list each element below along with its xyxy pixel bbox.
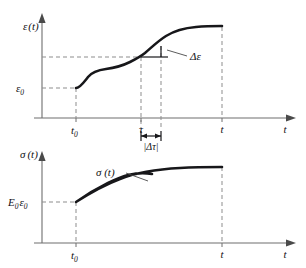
delta-tau-arrow-right xyxy=(155,133,161,138)
strain-y-axis-label-arg: (t) xyxy=(28,20,39,33)
stress-y-axis-arrowhead xyxy=(38,151,45,161)
stress-y-axis-label-symbol: σ xyxy=(20,148,26,160)
delta-tau-label: |Δτ| xyxy=(144,141,159,152)
stress-plot: σ(t) E0ε0 t0 t t σ (t) xyxy=(7,148,296,264)
delta-epsilon-leader-line xyxy=(167,50,187,56)
stress-tick-label-t0: t0 xyxy=(71,249,78,264)
strain-y-axis-arrowhead xyxy=(38,13,45,23)
creep-diagram-figure: ε(t) ε0 t0 τ t t Δε |Δτ| xyxy=(0,0,306,268)
strain-x-axis-label: t xyxy=(283,123,287,135)
strain-y-axis-label: ε(t) xyxy=(23,20,39,33)
sigma-curve-label: σ (t) xyxy=(96,166,115,179)
stress-tick-label-t: t xyxy=(220,248,224,260)
diagram-canvas: ε(t) ε0 t0 τ t t Δε |Δτ| xyxy=(0,0,306,268)
stress-x-axis-label: t xyxy=(283,248,287,260)
stress-E0e0-sub1: 0 xyxy=(15,202,19,211)
stress-E0e0-sub2: 0 xyxy=(24,202,28,211)
strain-tick-label-t0: t0 xyxy=(71,124,78,139)
stress-x-axis-arrowhead xyxy=(286,239,296,246)
strain-x-axis-arrowhead xyxy=(286,114,296,121)
strain-y-axis-label-symbol: ε xyxy=(23,20,28,32)
strain-epsilon0-subscript: 0 xyxy=(20,88,24,97)
stress-y-axis-label: σ(t) xyxy=(20,148,38,161)
strain-tick-label-tau: τ xyxy=(139,123,144,135)
stress-tick-label-t0-subscript: 0 xyxy=(74,255,78,264)
stress-E0e0-label: E0ε0 xyxy=(7,196,28,211)
strain-tick-label-t: t xyxy=(220,123,224,135)
strain-epsilon0-label: ε0 xyxy=(16,82,24,97)
stress-y-axis-label-arg: (t) xyxy=(27,148,38,161)
delta-epsilon-label: Δε xyxy=(189,50,201,62)
strain-tick-label-t0-subscript: 0 xyxy=(74,130,78,139)
strain-plot: ε(t) ε0 t0 τ t t Δε |Δτ| xyxy=(16,13,296,152)
